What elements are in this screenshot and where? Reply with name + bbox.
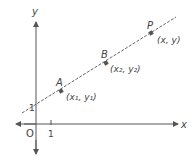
point-a-label: A <box>55 77 63 88</box>
x-axis-label: x <box>180 119 187 130</box>
point-p-label: P <box>147 20 154 31</box>
dashed-line <box>22 17 176 113</box>
y-axis-label: y <box>31 6 39 17</box>
x-tick-label: 1 <box>48 129 54 139</box>
point-b-coords: (x₂, y₂) <box>110 64 141 74</box>
origin-label: O <box>26 128 34 139</box>
point-a-coords: (x₁, y₁) <box>66 92 97 102</box>
point-p-coords: (x, y) <box>157 35 180 45</box>
point-b-marker <box>103 60 108 65</box>
coordinate-diagram: y x O 1 1 A (x₁, y₁) B (x₂, y₂) P (x, y) <box>0 0 192 161</box>
point-a-marker <box>58 88 63 93</box>
y-intercept-label: 1 <box>29 103 35 113</box>
point-b-label: B <box>101 49 108 60</box>
